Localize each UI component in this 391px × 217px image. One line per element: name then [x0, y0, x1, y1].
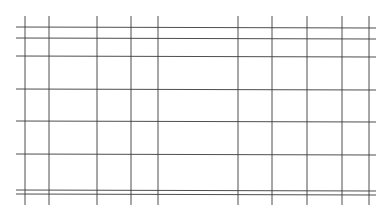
horizontal-lines: [16, 27, 376, 195]
grid-horizontal-line: [16, 121, 376, 122]
grid-horizontal-line: [16, 89, 376, 90]
grid-horizontal-line: [16, 194, 376, 195]
grid-horizontal-line: [16, 190, 376, 191]
grid-horizontal-line: [16, 56, 376, 57]
grid-diagram: [0, 0, 391, 217]
grid-horizontal-line: [16, 154, 376, 155]
grid-horizontal-line: [16, 38, 376, 39]
vertical-lines: [25, 16, 369, 205]
grid-horizontal-line: [16, 27, 376, 28]
